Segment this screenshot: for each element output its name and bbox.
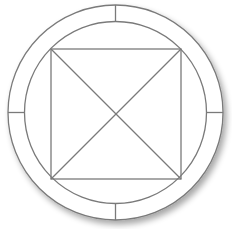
circle-square-diagram: [0, 0, 232, 229]
outer-circle: [8, 5, 223, 220]
diagram-canvas: [0, 0, 232, 229]
